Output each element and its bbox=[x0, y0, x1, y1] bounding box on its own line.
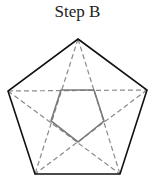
pentagon-diagram bbox=[0, 0, 155, 187]
inner-pentagon bbox=[51, 90, 104, 142]
diagonal-left-bottomright bbox=[8, 91, 120, 174]
